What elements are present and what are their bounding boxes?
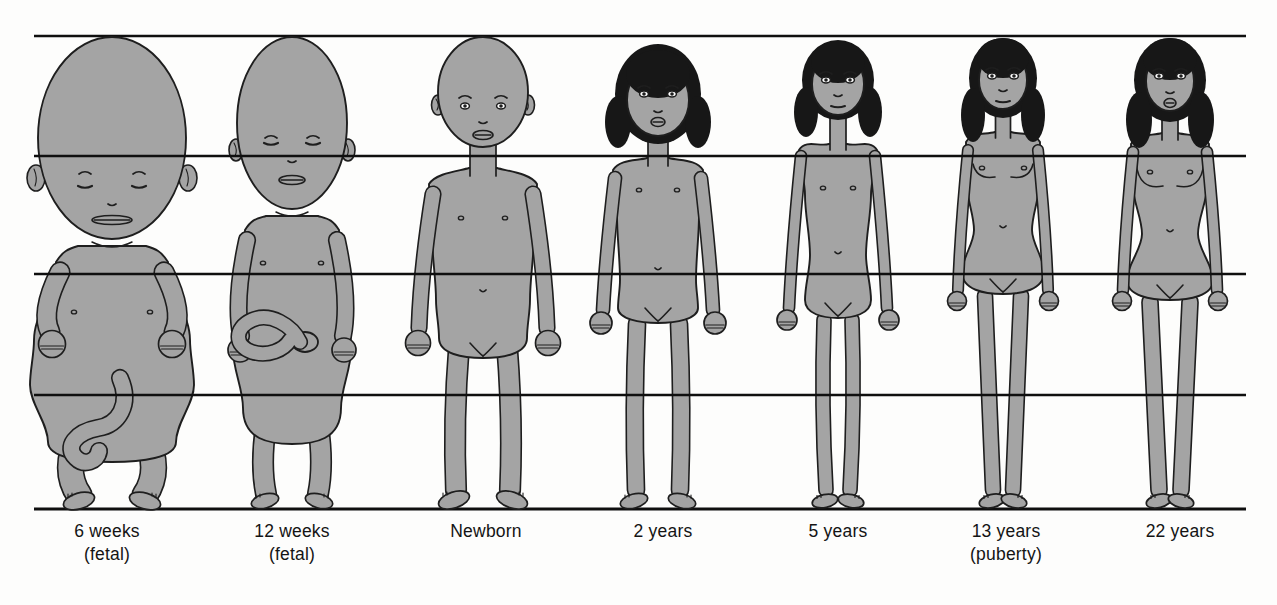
body-proportions-diagram: 6 weeks(fetal)12 weeks(fetal)Newborn2 ye… — [0, 0, 1277, 605]
head — [38, 37, 186, 239]
torso — [613, 158, 703, 323]
figure-two-years — [590, 44, 726, 511]
head — [237, 37, 347, 209]
figures-canvas — [0, 0, 1277, 605]
torso — [429, 168, 537, 358]
torso — [799, 144, 877, 318]
